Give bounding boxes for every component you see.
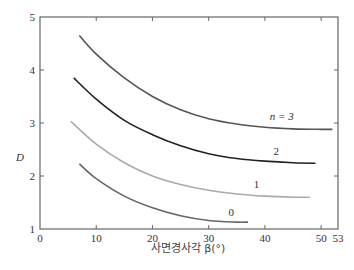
x-tick-label: 50 [316, 232, 328, 244]
y-tick-label: 5 [30, 11, 36, 23]
y-tick-label: 4 [30, 64, 36, 76]
x-tick-label: 0 [37, 232, 43, 244]
y-tick-label: 1 [30, 223, 36, 235]
x-axis-title: 사면경사각 β(°) [151, 242, 226, 255]
y-axis-title: D [15, 151, 24, 163]
curve-label: 1 [254, 178, 260, 190]
curve-label: 2 [273, 145, 279, 157]
line-chart: 010203040505312345 n = 3210 D 사면경사각 β(°) [0, 0, 354, 270]
x-tick-label: 10 [91, 232, 103, 244]
x-tick-label: 40 [259, 232, 271, 244]
curve-label: n = 3 [270, 110, 294, 122]
x-tick-label: 53 [333, 232, 345, 244]
y-tick-label: 3 [30, 117, 36, 129]
curve-label: 0 [228, 206, 234, 218]
y-tick-label: 2 [30, 170, 36, 182]
curves [71, 36, 332, 223]
